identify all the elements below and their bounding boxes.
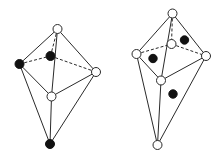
edge-left-bottom <box>20 64 51 144</box>
edge-left-middle <box>20 64 52 97</box>
face-dot-2 <box>149 54 157 62</box>
edge-right-middle <box>52 72 97 97</box>
vertex-back-white <box>167 40 176 49</box>
vertex-right-white <box>202 52 211 61</box>
edge-left-bottom <box>137 54 158 145</box>
vertex-right-white <box>92 68 101 77</box>
vertex-top-white <box>168 9 177 18</box>
right-polyhedron <box>132 9 211 150</box>
vertex-middle-white <box>47 92 56 101</box>
edge-right-bottom <box>50 72 96 144</box>
face-dot-3 <box>169 90 177 98</box>
vertex-middle-white <box>157 76 166 85</box>
vertex-bottom-white <box>153 141 162 150</box>
edge-middle-bottom <box>50 97 52 145</box>
vertex-bottom-black <box>46 140 55 149</box>
vertex-top-white <box>53 25 62 34</box>
face-dot-1 <box>180 36 188 44</box>
diagram-canvas <box>0 0 222 156</box>
vertex-left-black <box>15 60 24 69</box>
vertex-left-white <box>132 50 141 59</box>
vertex-back-black <box>46 52 55 61</box>
edge-middle-bottom <box>158 81 162 146</box>
edge-top-right <box>173 14 207 57</box>
left-polyhedron <box>15 25 101 149</box>
edge-top-left <box>137 14 173 55</box>
